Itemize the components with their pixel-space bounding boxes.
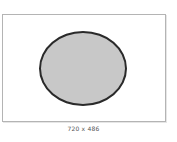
- image-dimensions-label: 720 x 486: [0, 125, 167, 132]
- image-preview: 720 x 486: [0, 0, 177, 142]
- ellipse-shape: [39, 31, 127, 106]
